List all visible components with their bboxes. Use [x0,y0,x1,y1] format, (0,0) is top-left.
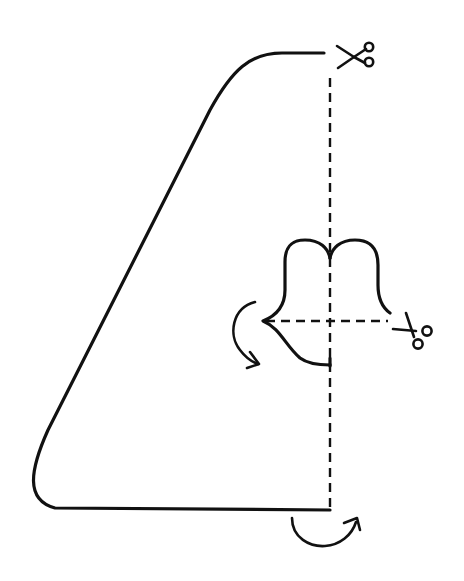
diagram-svg [0,0,464,581]
fold-arrow-bottom-icon [292,518,360,546]
diagram-canvas [0,0,464,581]
inner-bell-right-side [330,240,390,313]
fold-arrow-left-icon [233,302,259,368]
scissors-icon-right [393,313,432,349]
scissors-icon-top [337,43,373,68]
inner-bell-cut-shape [263,240,330,365]
